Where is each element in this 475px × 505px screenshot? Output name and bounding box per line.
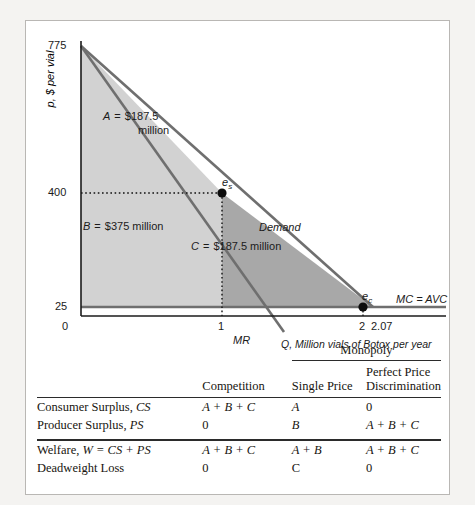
region-b-value: $375 million <box>105 220 164 232</box>
table-group-header-pad-1 <box>37 343 202 360</box>
cell-single-price: A <box>292 398 366 416</box>
row-label-text: Deadweight Loss <box>37 461 124 475</box>
table-row: Consumer Surplus, CS A + B + C A 0 <box>37 398 441 416</box>
x-tick-2: 2 <box>359 320 365 332</box>
chart-area: p, $ per vial 775 400 25 0 1 2 2.07 Q, M… <box>26 21 451 341</box>
cell-perfect-price-discrimination: 0 <box>366 459 441 477</box>
row-label-text: Welfare, <box>37 443 83 457</box>
cell-competition: 0 <box>202 459 292 477</box>
region-c-equals: = <box>199 240 213 252</box>
table-group-header-monopoly: Monopoly <box>292 343 441 360</box>
cell-perfect-price-discrimination: A + B + C <box>366 416 441 434</box>
table-header-perfect-price-discrimination: Perfect Price Discrimination <box>366 361 441 396</box>
mc-avc-curve-label: MC = AVC <box>396 293 447 305</box>
y-axis-label-text: p, $ per vial <box>44 51 56 108</box>
region-c-annotation: C=$187.5 million <box>191 240 281 252</box>
welfare-table-wrap: Monopoly Competition Single Price <box>26 343 451 495</box>
row-label-symbol: W = CS + PS <box>83 443 151 457</box>
cell-competition: A + B + C <box>202 441 292 459</box>
cell-single-price: A + B <box>292 441 366 459</box>
region-c-letter: C <box>191 240 199 252</box>
cell-competition: 0 <box>202 416 292 434</box>
region-a-annotation-line2: million <box>138 124 169 136</box>
cell-perfect-price-discrimination: A + B + C <box>366 441 441 459</box>
figure-frame: p, $ per vial 775 400 25 0 1 2 2.07 Q, M… <box>25 20 450 495</box>
point-ec-label: ec <box>362 290 372 305</box>
y-tick-400: 400 <box>48 186 66 198</box>
table-header-competition: Competition <box>202 361 292 396</box>
region-a-equals: = <box>110 110 124 122</box>
row-label-consumer-surplus: Consumer Surplus, CS <box>37 398 202 416</box>
point-ec-subscript: c <box>368 296 372 305</box>
region-c-value: $187.5 million <box>213 240 281 252</box>
table-header-ppd-line1: Perfect Price <box>366 365 430 379</box>
y-tick-25: 25 <box>55 300 67 312</box>
demand-curve-label: Demand <box>259 221 301 233</box>
row-label-producer-surplus: Producer Surplus, PS <box>37 416 202 434</box>
cell-competition: A + B + C <box>202 398 292 416</box>
row-label-symbol: PS <box>130 418 144 432</box>
point-es-label: es <box>222 176 232 191</box>
region-a-annotation: A=$187.5 <box>103 110 158 122</box>
table-group-header-pad-2 <box>202 343 292 360</box>
y-tick-775: 775 <box>48 39 66 51</box>
table-header-blank <box>37 361 202 396</box>
table-header-ppd-line2: Discrimination <box>366 379 441 393</box>
cell-perfect-price-discrimination: 0 <box>366 398 441 416</box>
welfare-table: Monopoly Competition Single Price <box>37 343 441 477</box>
table-row: Deadweight Loss 0 C 0 <box>37 459 441 477</box>
region-a-value: $187.5 <box>125 110 159 122</box>
row-label-text: Consumer Surplus, <box>37 400 136 414</box>
table-group-header-row: Monopoly <box>37 343 441 360</box>
x-tick-1: 1 <box>218 320 224 332</box>
table-row: Welfare, W = CS + PS A + B + C A + B A +… <box>37 441 441 459</box>
row-label-deadweight-loss: Deadweight Loss <box>37 459 202 477</box>
cell-single-price: C <box>292 459 366 477</box>
y-tick-0: 0 <box>62 320 68 332</box>
figure-page: p, $ per vial 775 400 25 0 1 2 2.07 Q, M… <box>0 0 475 505</box>
row-label-text: Producer Surplus, <box>37 418 130 432</box>
point-es-subscript: s <box>228 182 232 191</box>
region-b-equals: = <box>90 220 104 232</box>
cell-single-price: B <box>292 416 366 434</box>
region-b-annotation: B=$375 million <box>83 220 163 232</box>
table-header-row: Competition Single Price Perfect Price D… <box>37 361 441 396</box>
row-label-symbol: CS <box>136 400 151 414</box>
table-row: Producer Surplus, PS 0 B A + B + C <box>37 416 441 434</box>
row-label-welfare: Welfare, W = CS + PS <box>37 441 202 459</box>
chart-canvas <box>26 21 451 341</box>
x-tick-2-07: 2.07 <box>371 320 392 332</box>
table-header-single-price: Single Price <box>292 361 366 396</box>
